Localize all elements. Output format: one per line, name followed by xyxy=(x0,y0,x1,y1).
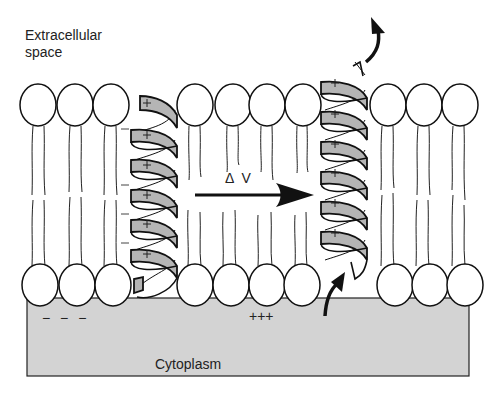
extracellular-label-line2: space xyxy=(25,44,145,61)
lipid-tails-bottom xyxy=(32,193,465,266)
activated-helix xyxy=(321,62,367,279)
cytoplasm-negative-charges: − − − xyxy=(42,310,89,327)
membrane-negative-charges xyxy=(121,129,129,243)
extracellular-label-line1: Extracellular xyxy=(25,27,145,44)
lipid-heads-top xyxy=(20,84,478,126)
cytoplasm-positive-charges: +++ xyxy=(249,308,274,325)
resting-helix xyxy=(131,96,177,298)
extracellular-space-label: Extracellular space xyxy=(25,27,145,61)
cytoplasm-region xyxy=(27,298,469,376)
cytoplasm-label: Cytoplasm xyxy=(155,356,221,373)
delta-v-label: Δ V xyxy=(225,170,253,187)
outward-curved-arrow xyxy=(366,17,385,62)
lipid-tails-top xyxy=(32,126,465,200)
delta-v-arrow xyxy=(195,183,314,207)
